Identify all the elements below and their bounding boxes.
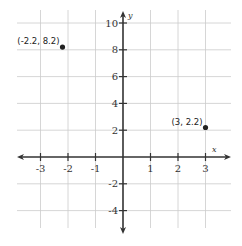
y-tick-label: 8: [112, 44, 118, 55]
y-tick-label: 10: [105, 18, 118, 29]
x-tick-label: 3: [202, 163, 208, 174]
x-tick-label: -3: [36, 163, 46, 174]
y-tick-label: 6: [112, 71, 118, 82]
y-tick-label: -4: [108, 205, 118, 216]
x-tick-label: 1: [147, 163, 153, 174]
coordinate-plane: xy -3-2-1123108642-2-4 (-2.2, 8.2)(3, 2.…: [0, 0, 242, 246]
x-tick-label: -2: [63, 163, 73, 174]
y-tick-label: 4: [112, 98, 118, 109]
data-point: [60, 45, 65, 50]
x-axis-label: x: [212, 145, 217, 154]
y-tick-label: -2: [108, 178, 118, 189]
y-axis-label: y: [127, 11, 133, 20]
x-tick-label: 2: [175, 163, 181, 174]
data-point: [203, 125, 208, 130]
data-point-label: (3, 2.2): [172, 117, 203, 127]
y-tick-label: 2: [112, 125, 118, 136]
x-tick-label: -1: [91, 163, 101, 174]
data-point-label: (-2.2, 8.2): [17, 36, 59, 46]
